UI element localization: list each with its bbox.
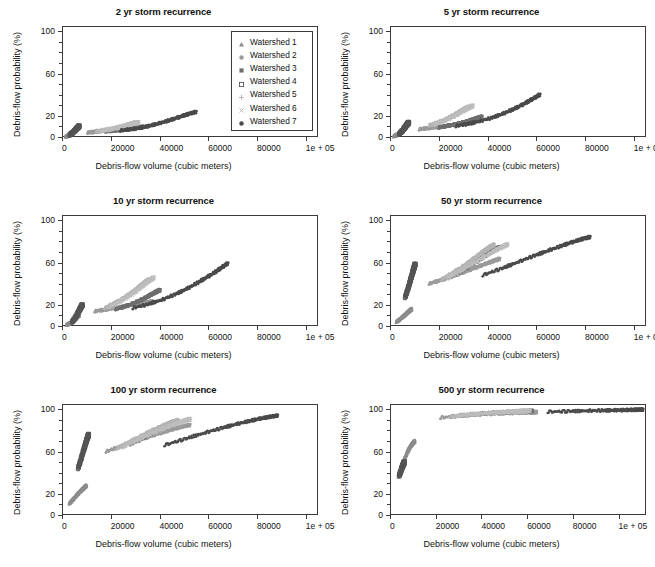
- chart-panel: 2 yr storm recurrence0200004000060000800…: [0, 0, 327, 189]
- chart-panel: 5 yr storm recurrence0200004000060000800…: [328, 0, 655, 189]
- legend-label: Watershed 3: [250, 63, 297, 73]
- series-watershed-6: [122, 417, 192, 450]
- series-watershed-1: [67, 483, 88, 506]
- scatter-layer: [328, 0, 655, 189]
- legend-item: Watershed 6: [236, 102, 297, 113]
- series-watershed-4: [397, 460, 406, 478]
- chart-panel: 100 yr storm recurrence02000040000600008…: [0, 378, 327, 567]
- plus-icon: [236, 89, 247, 100]
- series-watershed-4: [76, 432, 90, 470]
- legend-label: Watershed 6: [250, 103, 297, 113]
- scatter-layer: [328, 189, 655, 378]
- legend-item: Watershed 3: [236, 62, 297, 73]
- legend-item: Watershed 5: [236, 89, 297, 100]
- legend-item: Watershed 1: [236, 36, 297, 47]
- scatter-layer: [0, 189, 327, 378]
- series-watershed-6: [453, 409, 532, 419]
- scatter-layer: [328, 378, 655, 567]
- square-open-icon: [236, 76, 247, 87]
- legend-label: Watershed 7: [250, 116, 297, 126]
- series-watershed-4: [397, 120, 410, 136]
- series-watershed-4: [68, 124, 81, 137]
- legend-item: Watershed 7: [236, 115, 297, 126]
- square-filled-icon: [236, 62, 247, 73]
- series-watershed-4: [403, 262, 417, 300]
- figure-root: 2 yr storm recurrence0200004000060000800…: [0, 0, 655, 567]
- series-watershed-7: [481, 235, 591, 278]
- legend-item: Watershed 2: [236, 49, 297, 60]
- series-watershed-7: [546, 407, 644, 414]
- chart-panel: 10 yr storm recurrence020000400006000080…: [0, 189, 327, 378]
- scatter-layer: [0, 378, 327, 567]
- series-watershed-7: [163, 413, 279, 447]
- legend-label: Watershed 5: [250, 89, 297, 99]
- chart-panel: 500 yr storm recurrence02000040000600008…: [328, 378, 655, 567]
- cross-icon: [236, 102, 247, 113]
- legend-label: Watershed 4: [250, 76, 297, 86]
- legend-item: Watershed 4: [236, 76, 297, 87]
- circle-icon: [236, 49, 247, 60]
- chart-panel: 50 yr storm recurrence020000400006000080…: [328, 189, 655, 378]
- series-watershed-1: [394, 306, 413, 324]
- legend-label: Watershed 1: [250, 37, 297, 47]
- circle-filled-icon: [236, 115, 247, 126]
- legend-label: Watershed 2: [250, 50, 297, 60]
- triangle-icon: [236, 36, 247, 47]
